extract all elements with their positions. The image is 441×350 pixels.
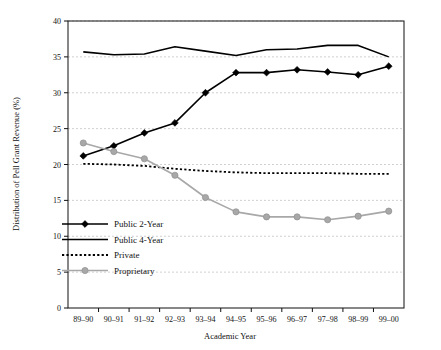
x-tick-label-89–90: 89–90 [73, 315, 93, 324]
y-tick-label-25: 25 [53, 125, 61, 134]
x-tick-label-97–98: 97–98 [318, 315, 338, 324]
y-axis-title: Distribution of Pell Grant Revenue (%) [11, 97, 21, 231]
data-point-marker [355, 213, 361, 219]
x-tick-label-95–96: 95–96 [257, 315, 277, 324]
data-point-marker [172, 172, 178, 178]
x-tick-label-90–91: 90–91 [104, 315, 124, 324]
x-tick-label-94–95: 94–95 [226, 315, 246, 324]
y-tick-label-10: 10 [53, 232, 61, 241]
data-point-marker [386, 208, 392, 214]
data-point-marker [325, 217, 331, 223]
x-tick-label-96–97: 96–97 [287, 315, 307, 324]
data-point-marker [80, 140, 86, 146]
x-tick-label-93–94: 93–94 [195, 315, 215, 324]
legend-swatch-marker [82, 267, 88, 273]
x-tick-label-91–92: 91–92 [134, 315, 154, 324]
x-axis-title: Academic Year [204, 331, 256, 341]
chart-container: 0510152025303540 89–9090–9191–9292–9393–… [0, 0, 441, 350]
y-tick-label-40: 40 [53, 17, 61, 26]
x-tick-label-92–93: 92–93 [165, 315, 185, 324]
x-tick-label-98–99: 98–99 [348, 315, 368, 324]
legend-label: Public 4-Year [114, 235, 163, 245]
x-tick-label-99–00: 99–00 [379, 315, 399, 324]
data-point-marker [233, 209, 239, 215]
data-point-marker [141, 156, 147, 162]
y-tick-label-5: 5 [57, 268, 61, 277]
y-tick-label-35: 35 [53, 53, 61, 62]
legend-label: Proprietary [114, 266, 155, 276]
y-tick-label-15: 15 [53, 196, 61, 205]
y-tick-label-30: 30 [53, 89, 61, 98]
pell-grant-revenue-line-chart: 0510152025303540 89–9090–9191–9292–9393–… [0, 0, 441, 350]
data-point-marker [111, 148, 117, 154]
data-point-marker [294, 214, 300, 220]
data-point-marker [263, 214, 269, 220]
data-point-marker [202, 194, 208, 200]
legend-label: Private [114, 250, 140, 260]
legend-label: Public 2-Year [114, 219, 163, 229]
y-tick-label-20: 20 [53, 161, 61, 170]
y-tick-label-0: 0 [57, 304, 61, 313]
